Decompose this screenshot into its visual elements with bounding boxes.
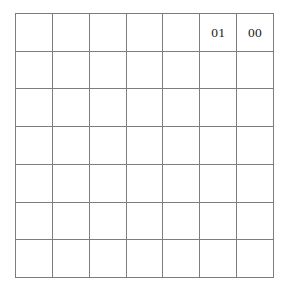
grid-table: 0100: [15, 13, 274, 278]
grid-cell: [200, 89, 237, 127]
grid-cell: [127, 240, 164, 278]
grid-cell: [53, 240, 90, 278]
grid-cell: [237, 240, 274, 278]
grid-cell: [90, 203, 127, 241]
grid-cell: [90, 89, 127, 127]
grid-cell: [90, 52, 127, 90]
grid-cell-label: 00: [248, 26, 262, 40]
grid-cell: [163, 89, 200, 127]
grid-cell: [53, 165, 90, 203]
grid-cell: [16, 165, 53, 203]
grid-cell: [127, 203, 164, 241]
grid-cell: [53, 52, 90, 90]
grid-cell: [53, 203, 90, 241]
grid-cell: [163, 14, 200, 52]
grid-cell: [53, 89, 90, 127]
grid-cell: [237, 203, 274, 241]
grid-cell-label: 01: [211, 26, 225, 40]
grid-cell: [16, 89, 53, 127]
grid-cell: [163, 240, 200, 278]
grid-cell: [237, 52, 274, 90]
grid-cell: [90, 127, 127, 165]
grid-cell: [16, 14, 53, 52]
grid-cell: [127, 14, 164, 52]
grid-cell: [16, 127, 53, 165]
grid-cell: [127, 52, 164, 90]
grid-cell: 00: [237, 14, 274, 52]
grid-cell: [237, 165, 274, 203]
grid-cell: [16, 203, 53, 241]
grid-cell: [127, 165, 164, 203]
grid-cell: [200, 203, 237, 241]
grid-cell: [127, 89, 164, 127]
grid-cell: [127, 127, 164, 165]
grid-cell: [53, 127, 90, 165]
grid-cell: [90, 240, 127, 278]
grid-cell: [200, 165, 237, 203]
grid-cell: [237, 89, 274, 127]
grid-cell: [53, 14, 90, 52]
grid-cell: [16, 240, 53, 278]
grid-cell: [200, 240, 237, 278]
grid-cell: [200, 127, 237, 165]
grid-cell: [163, 165, 200, 203]
grid-cell: [16, 52, 53, 90]
grid-cell: [200, 52, 237, 90]
grid-cell: [163, 52, 200, 90]
grid-cell: [163, 203, 200, 241]
grid-cell: [90, 14, 127, 52]
grid-cell: 01: [200, 14, 237, 52]
grid-cell: [237, 127, 274, 165]
grid-cell: [163, 127, 200, 165]
grid-cell: [90, 165, 127, 203]
